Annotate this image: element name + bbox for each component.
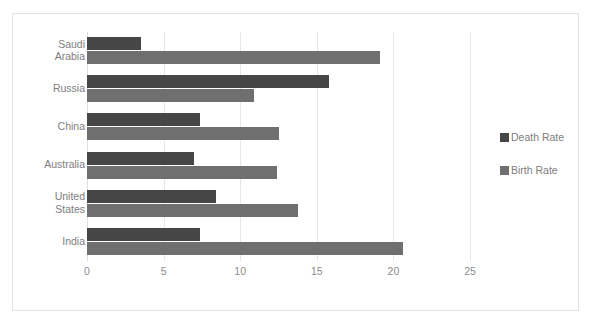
category-label: Australia — [0, 158, 85, 171]
bar-death-rate — [87, 152, 194, 165]
gridline-5 — [164, 32, 165, 261]
x-tick-label-5: 5 — [161, 265, 167, 277]
chart-container: 0510152025 Saudi ArabiaRussiaChinaAustra… — [12, 13, 579, 311]
gridline-15 — [317, 32, 318, 261]
bar-birth-rate — [87, 166, 277, 179]
x-tick-label-0: 0 — [84, 265, 90, 277]
bar-death-rate — [87, 228, 200, 241]
x-tick-label-20: 20 — [388, 265, 400, 277]
legend-item[interactable]: Birth Rate — [500, 164, 580, 176]
bar-group — [87, 190, 470, 217]
bar-group — [87, 75, 470, 102]
bar-birth-rate — [87, 89, 254, 102]
category-label: China — [0, 120, 85, 133]
bar-birth-rate — [87, 51, 380, 64]
x-tick-label-15: 15 — [311, 265, 323, 277]
category-label: Saudi Arabia — [0, 38, 85, 63]
chart-legend: Death RateBirth Rate — [500, 131, 580, 197]
gridline-20 — [393, 32, 394, 261]
x-tick-label-10: 10 — [234, 265, 246, 277]
bar-death-rate — [87, 113, 200, 126]
legend-label: Death Rate — [511, 131, 564, 143]
category-label: India — [0, 235, 85, 248]
x-tick-label-25: 25 — [464, 265, 476, 277]
bar-death-rate — [87, 75, 329, 88]
category-label: United States — [0, 190, 85, 215]
bar-death-rate — [87, 37, 141, 50]
bar-group — [87, 228, 470, 255]
bar-birth-rate — [87, 204, 298, 217]
bar-group — [87, 37, 470, 64]
category-label: Russia — [0, 82, 85, 95]
gridline-25 — [470, 32, 471, 261]
bar-group — [87, 152, 470, 179]
legend-label: Birth Rate — [511, 164, 558, 176]
legend-swatch-icon — [500, 166, 509, 175]
gridline-0 — [87, 32, 88, 261]
bar-birth-rate — [87, 127, 279, 140]
gridline-10 — [240, 32, 241, 261]
legend-item[interactable]: Death Rate — [500, 131, 580, 143]
legend-swatch-icon — [500, 133, 509, 142]
plot-area: 0510152025 Saudi ArabiaRussiaChinaAustra… — [87, 32, 470, 261]
bar-group — [87, 113, 470, 140]
bar-birth-rate — [87, 242, 403, 255]
bar-death-rate — [87, 190, 216, 203]
